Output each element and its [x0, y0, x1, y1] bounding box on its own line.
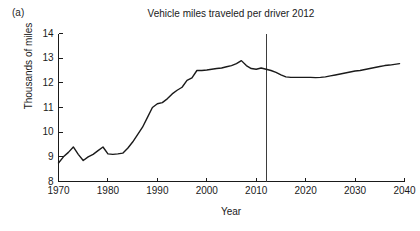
x-tick-label: 2030 [344, 185, 367, 196]
y-tick-label: 11 [43, 102, 54, 113]
y-tick-label: 14 [42, 28, 54, 39]
x-tick-label: 1990 [146, 185, 169, 196]
data-series-line [59, 61, 400, 163]
x-tick-label: 1970 [47, 185, 70, 196]
y-tick-label: 9 [48, 151, 54, 162]
x-axis-ticks: 19701980199020002010202020302040 [47, 178, 416, 196]
x-tick-label: 2040 [393, 185, 416, 196]
x-tick-label: 2010 [245, 185, 268, 196]
line-chart-plot: 891011121314 197019801990200020102020203… [0, 0, 420, 231]
x-tick-label: 2000 [196, 185, 219, 196]
y-tick-label: 13 [42, 52, 54, 63]
x-tick-label: 1980 [97, 185, 120, 196]
y-tick-label: 12 [42, 77, 54, 88]
figure-container: (a) Vehicle miles traveled per driver 20… [0, 0, 420, 231]
x-tick-label: 2020 [295, 185, 318, 196]
axis-frame [59, 34, 405, 182]
y-tick-label: 10 [42, 126, 54, 137]
